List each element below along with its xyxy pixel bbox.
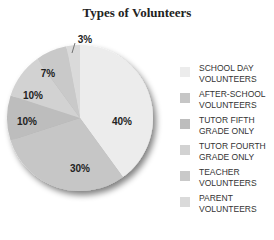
legend-item: TUTOR FIFTH GRADE ONLY: [180, 115, 266, 141]
legend-item: PARENT VOLUNTEERS: [180, 193, 266, 219]
legend-swatch: [180, 197, 190, 207]
legend-label: TUTOR FIFTH GRADE ONLY: [199, 115, 255, 137]
legend-label: TUTOR FOURTH GRADE ONLY: [199, 141, 266, 163]
legend-item: SCHOOL DAY VOLUNTEERS: [180, 63, 266, 89]
slice-label: 3%: [78, 34, 93, 45]
legend: SCHOOL DAY VOLUNTEERSAFTER-SCHOOL VOLUNT…: [180, 63, 266, 219]
slice-label: 40%: [112, 116, 132, 127]
legend-label: TEACHER VOLUNTEERS: [199, 167, 257, 189]
legend-swatch: [180, 93, 190, 103]
legend-item: AFTER-SCHOOL VOLUNTEERS: [180, 89, 266, 115]
legend-swatch: [180, 67, 190, 77]
legend-label: PARENT VOLUNTEERS: [199, 193, 257, 215]
legend-item: TUTOR FOURTH GRADE ONLY: [180, 141, 266, 167]
slice-label: 10%: [17, 116, 37, 127]
slice-label: 7%: [41, 68, 56, 79]
legend-swatch: [180, 145, 190, 155]
legend-label: AFTER-SCHOOL VOLUNTEERS: [199, 89, 266, 111]
legend-swatch: [180, 171, 190, 181]
slice-label: 10%: [23, 90, 43, 101]
slice-label: 30%: [70, 163, 90, 174]
legend-swatch: [180, 119, 190, 129]
legend-item: TEACHER VOLUNTEERS: [180, 167, 266, 193]
legend-label: SCHOOL DAY VOLUNTEERS: [199, 63, 257, 85]
